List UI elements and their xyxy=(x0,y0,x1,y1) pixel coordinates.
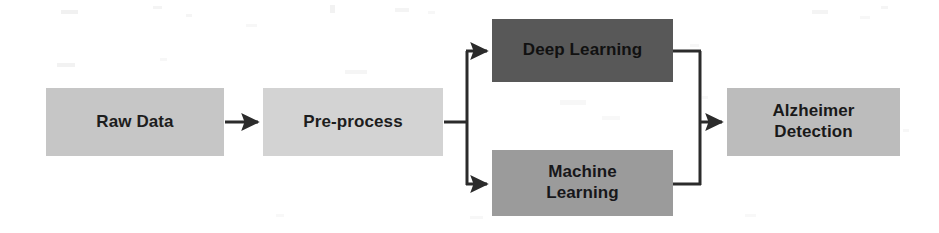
node-pre-process-label: Pre-process xyxy=(263,112,443,133)
node-alzheimer-detection: Alzheimer Detection xyxy=(727,88,900,156)
edge-merge-to-alzheimer-detection xyxy=(699,51,722,185)
node-deep-learning: Deep Learning xyxy=(492,19,673,82)
flowchart-diagram: Raw Data Pre-process Deep Learning Machi… xyxy=(0,0,939,233)
node-deep-learning-label: Deep Learning xyxy=(492,40,673,61)
node-raw-data: Raw Data xyxy=(46,88,224,156)
node-machine-learning-label: Machine Learning xyxy=(492,162,673,203)
node-alzheimer-detection-label: Alzheimer Detection xyxy=(727,101,900,142)
node-raw-data-label: Raw Data xyxy=(46,112,224,133)
node-pre-process: Pre-process xyxy=(263,88,443,156)
node-machine-learning: Machine Learning xyxy=(492,150,673,216)
edge-pre-process-branch-trunk xyxy=(444,51,468,185)
